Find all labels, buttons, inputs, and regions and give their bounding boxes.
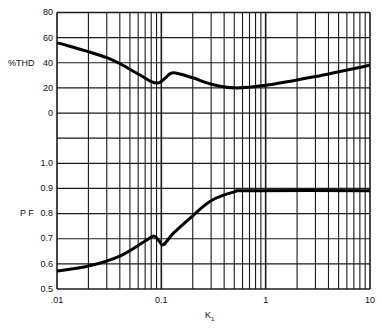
pf-y-tick: 0.9 (40, 183, 53, 193)
thd-y-tick: 40 (43, 58, 53, 68)
x-tick: 1 (263, 295, 268, 305)
thd-y-tick: 0 (48, 108, 53, 118)
grid (57, 13, 370, 290)
x-tick: .01 (51, 295, 64, 305)
thd-axis-label: %THD (8, 58, 35, 68)
thd-y-tick: 20 (43, 83, 53, 93)
thd-pf-chart: 0204060800.50.60.70.80.91.0.010.1110 %TH… (0, 0, 382, 332)
pf-y-tick: 0.8 (40, 208, 53, 218)
x-tick: 10 (365, 295, 375, 305)
pf-curve (57, 191, 370, 272)
pf-axis-label: P F (20, 208, 34, 218)
pf-y-tick: 0.6 (40, 259, 53, 269)
pf-y-tick: 0.5 (40, 284, 53, 294)
thd-y-tick: 80 (43, 7, 53, 17)
thd-curve (57, 43, 370, 88)
x-tick: 0.1 (155, 295, 168, 305)
x-axis-label: K1 (205, 310, 215, 322)
pf-y-tick: 1.0 (40, 158, 53, 168)
thd-y-tick: 60 (43, 33, 53, 43)
curves (57, 43, 370, 271)
x-axis-label-sub: 1 (211, 316, 215, 322)
pf-y-tick: 0.7 (40, 233, 53, 243)
